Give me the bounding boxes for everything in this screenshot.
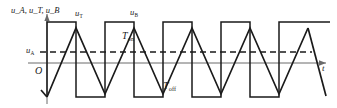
- triangle-lead-in-segment: [41, 90, 47, 97]
- annotation-ub-sub: B: [135, 12, 139, 18]
- annotation-ut: uT: [75, 9, 82, 18]
- y-axis-arrow: [44, 14, 49, 21]
- origin-label-text: O: [35, 65, 42, 76]
- x-axis-label: t: [322, 64, 325, 73]
- x-axis-label-text: t: [322, 63, 325, 73]
- annotation-ub: uB: [130, 8, 138, 17]
- annotation-toff-base: T: [163, 80, 169, 91]
- annotation-ua: uA: [26, 46, 34, 55]
- annotation-ub-base: u: [130, 7, 134, 17]
- waveform-figure: u_A, u_T, u_B uT uB uA Ton Toff O t: [0, 0, 337, 108]
- annotation-ton: Ton: [122, 31, 134, 41]
- annotation-ut-sub: T: [80, 13, 83, 19]
- annotation-ua-sub: A: [31, 50, 35, 56]
- y-axis-label-text: u_A, u_T, u_B: [11, 5, 59, 15]
- annotation-ua-base: u: [26, 45, 30, 55]
- annotation-toff: Toff: [163, 81, 176, 91]
- annotation-toff-sub: off: [169, 85, 176, 92]
- annotation-ut-base: u: [75, 8, 79, 18]
- annotation-ton-sub: on: [128, 35, 134, 42]
- annotation-ton-base: T: [122, 30, 128, 41]
- y-axis-label: u_A, u_T, u_B: [11, 6, 59, 15]
- origin-label: O: [35, 66, 42, 76]
